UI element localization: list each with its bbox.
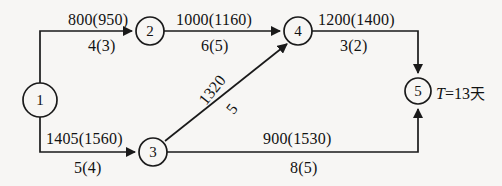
total-time-unit: 天 [470,85,485,103]
edge-1-3-cost-label: 1405(1560) [46,131,123,147]
node-label-4: 4 [290,24,306,39]
edge-1-2-cost-label: 800(950) [68,12,128,28]
edge-4-5-duration-label: 3(2) [340,38,367,54]
edge-3-5-cost-label: 900(1530) [263,131,331,147]
node-label-2: 2 [142,24,158,39]
edge-line-1-2 [40,31,132,83]
edge-2-4-duration-label: 6(5) [201,38,228,54]
node-label-5: 5 [410,84,426,99]
node-label-1: 1 [32,93,48,108]
total-time-equals: = [445,85,454,102]
edge-1-2-duration-label: 4(3) [88,38,115,54]
edge-2-4-cost-label: 1000(1160) [176,12,252,28]
edge-1-3-duration-label: 5(4) [74,160,101,176]
node-label-3: 3 [145,145,161,160]
network-diagram-canvas: 1 2 3 4 5 800(950) 4(3) 1000(1160) 6(5) … [0,0,502,186]
edge-4-5-cost-label: 1200(1400) [318,12,395,28]
total-time-label: T=13天 [436,82,485,103]
edge-3-5-duration-label: 8(5) [290,160,317,176]
edge-line-3-4 [165,44,287,141]
total-time-value: 13 [454,85,470,102]
total-time-variable: T [436,85,445,102]
